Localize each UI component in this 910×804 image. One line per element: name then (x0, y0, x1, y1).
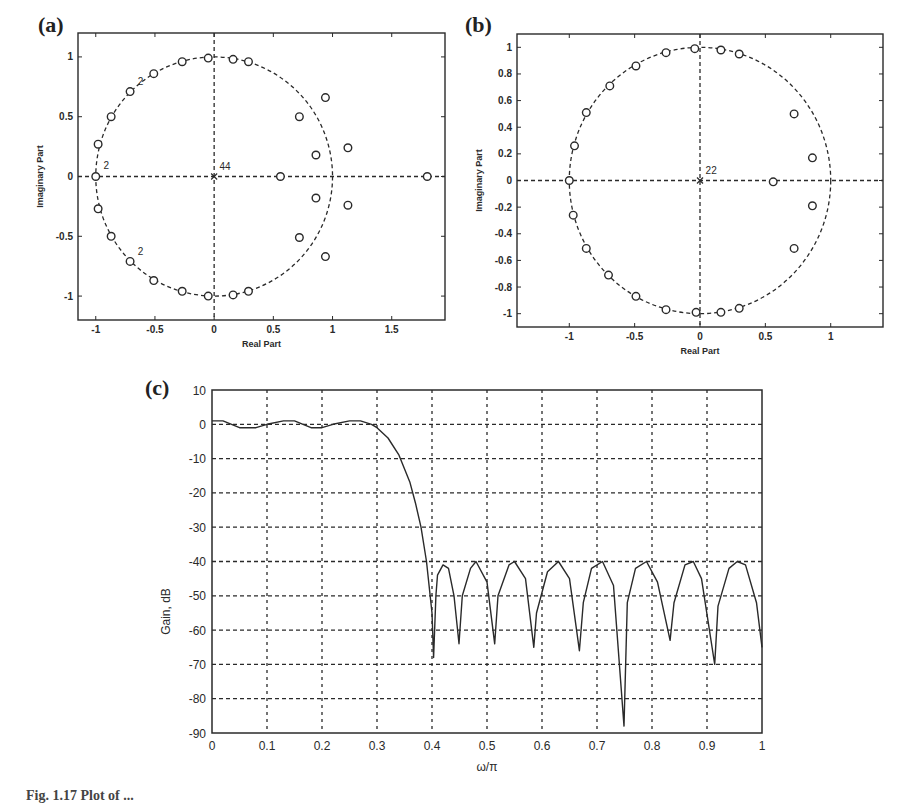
zero-marker (565, 177, 573, 185)
x-tick-label: 0.5 (758, 331, 772, 342)
zero-marker (150, 70, 158, 78)
y-tick-label: 1 (67, 51, 73, 62)
y-tick-label: -1 (503, 308, 512, 319)
zero-marker (790, 110, 798, 118)
y-tick-label: 0.4 (498, 122, 512, 133)
x-tick-label: 0.5 (479, 739, 496, 753)
x-axis-label: Real Part (242, 339, 281, 349)
y-tick-label: -0.8 (495, 282, 513, 293)
zero-marker (107, 232, 115, 240)
zero-marker (126, 258, 134, 266)
zero-marker (790, 245, 798, 253)
multiplicity-annotation: 2 (138, 76, 144, 87)
zero-marker (344, 201, 352, 209)
y-tick-label: -1 (64, 291, 73, 302)
zero-marker (809, 154, 817, 162)
y-axis-label: Imaginary Part (35, 145, 45, 208)
zero-marker (107, 113, 115, 121)
x-tick-label: 1 (828, 331, 834, 342)
x-tick-label: 0.8 (644, 739, 661, 753)
zero-marker (296, 234, 304, 242)
zero-marker (126, 88, 134, 96)
zero-marker (245, 58, 253, 66)
zero-marker (344, 144, 352, 152)
y-tick-label: 10 (193, 384, 207, 398)
zero-marker (296, 113, 304, 121)
zero-marker (245, 288, 253, 296)
figure-caption: Fig. 1.17 Plot of ... (26, 788, 134, 804)
y-tick-label: -60 (189, 624, 207, 638)
x-tick-label: 1 (330, 324, 336, 335)
y-axis-label: Imaginary Part (474, 149, 484, 212)
multiplicity-annotation: 2 (103, 160, 109, 171)
multiplicity-annotation: 2 (138, 246, 144, 257)
zero-marker (632, 62, 640, 70)
x-tick-label: 0.9 (699, 739, 716, 753)
zero-marker (178, 288, 186, 296)
y-tick-label: 0.5 (59, 111, 73, 122)
y-tick-label: -0.6 (495, 255, 513, 266)
multiplicity-annotation: 22 (706, 165, 718, 176)
x-tick-label: 1.5 (385, 324, 399, 335)
x-tick-label: -1 (91, 324, 100, 335)
y-tick-label: -20 (189, 486, 207, 500)
x-tick-label: 0.3 (369, 739, 386, 753)
chart-c: 00.10.20.30.40.50.60.70.80.91100-10-20-3… (159, 384, 766, 775)
y-tick-label: -0.5 (56, 231, 74, 242)
zero-marker (423, 173, 431, 181)
zero-marker (569, 211, 577, 219)
zero-marker (322, 253, 330, 261)
x-tick-label: -1 (565, 331, 574, 342)
x-tick-label: -0.5 (146, 324, 164, 335)
y-tick-label: -90 (189, 727, 207, 741)
y-tick-label: -50 (189, 589, 207, 603)
zero-marker (322, 94, 330, 102)
zero-marker (582, 109, 590, 117)
x-tick-label: 0 (211, 324, 217, 335)
multiplicity-annotation: 44 (220, 161, 232, 172)
zero-marker (582, 245, 590, 253)
x-tick-label: 0.5 (266, 324, 280, 335)
zero-marker (229, 291, 237, 299)
zero-marker (735, 305, 743, 313)
y-tick-label: -70 (189, 658, 207, 672)
y-tick-label: 0 (199, 418, 206, 432)
zero-marker (769, 178, 777, 186)
x-tick-label: 0.1 (259, 739, 276, 753)
y-tick-label: 0 (506, 175, 512, 186)
x-axis-label: Real Part (680, 346, 719, 356)
zero-marker (571, 142, 579, 150)
zero-marker (717, 309, 725, 317)
zero-marker (632, 293, 640, 301)
y-tick-label: -40 (189, 555, 207, 569)
y-tick-label: 1 (506, 42, 512, 53)
y-tick-label: -10 (189, 452, 207, 466)
y-axis-label: Gain, dB (159, 588, 173, 635)
x-tick-label: 0.7 (589, 739, 606, 753)
x-axis-label: ω/π (477, 760, 498, 774)
zero-marker (204, 292, 212, 300)
y-tick-label: 0 (67, 171, 73, 182)
y-tick-label: 0.8 (498, 68, 512, 79)
x-tick-label: 1 (759, 739, 766, 753)
zero-marker (809, 202, 817, 210)
y-tick-label: -0.2 (495, 202, 513, 213)
y-tick-label: -30 (189, 521, 207, 535)
zero-marker (204, 54, 212, 62)
zero-marker (692, 309, 700, 317)
y-tick-label: -80 (189, 692, 207, 706)
chart-a: -1-0.500.511.5-1-0.500.51Real PartImagin… (35, 33, 445, 349)
zero-marker (605, 271, 613, 279)
zero-marker (277, 173, 285, 181)
zero-marker (662, 306, 670, 314)
x-tick-label: 0.4 (424, 739, 441, 753)
y-tick-label: 0.6 (498, 95, 512, 106)
zero-marker (178, 58, 186, 66)
x-tick-label: -0.5 (626, 331, 644, 342)
zero-marker (735, 50, 743, 58)
y-tick-label: -0.4 (495, 228, 513, 239)
x-tick-label: 0 (697, 331, 703, 342)
x-tick-label: 0 (209, 739, 216, 753)
zero-marker (717, 46, 725, 54)
